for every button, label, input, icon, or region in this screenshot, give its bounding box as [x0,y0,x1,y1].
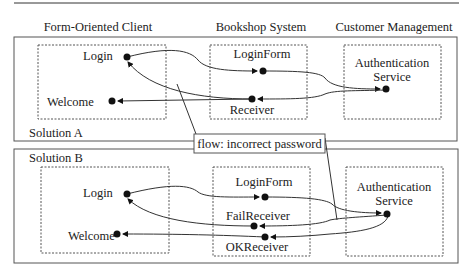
flow-auth-to-receiver-a [258,90,386,99]
node-welcome-a-label: Welcome [47,95,94,109]
node-login-a-dot [124,54,131,61]
node-loginform-b-dot [262,194,269,201]
solution-b-panel: Solution B Login Welcome LoginForm FailR… [14,149,458,263]
service-a-label-line1: Authentication [355,56,430,70]
node-welcome-a-dot [109,98,116,105]
flow-loginform-to-auth-a [263,71,380,89]
flow-receiver-to-login-a [128,62,252,99]
node-login-b-label: Login [83,186,114,200]
node-receiver-a-dot [249,96,256,103]
column-header-client: Form-Oriented Client [44,20,153,34]
node-okreceiver-b-label: OKReceiver [226,240,289,254]
node-auth-b-dot [384,211,391,218]
node-welcome-b-dot [114,231,121,238]
flow-receiver-to-welcome-a [118,99,252,101]
node-loginform-a-label: LoginForm [234,47,291,61]
callout-leader-b [325,138,337,220]
solution-a-panel: Solution A Login Welcome LoginForm Recei… [14,37,457,141]
callout-label: flow: incorrect password [197,137,322,151]
service-a-label-line2: Service [373,70,411,84]
node-receiver-a-label: Receiver [230,103,275,117]
node-okreceiver-b-dot [262,234,269,241]
solution-a-title: Solution A [29,126,83,140]
node-auth-a-dot [383,86,390,93]
service-b-label-line1: Authentication [357,180,432,194]
node-login-a-label: Login [83,49,114,63]
node-welcome-b-label: Welcome [68,229,115,243]
node-failreceiver-b-label: FailReceiver [226,209,291,223]
node-loginform-a-dot [260,68,267,75]
node-login-b-dot [124,191,131,198]
callout-leader-a [177,84,196,134]
node-failreceiver-b-dot [251,223,258,230]
solution-b-title: Solution B [29,151,83,165]
node-loginform-b-label: LoginForm [236,175,293,189]
column-header-system: Bookshop System [216,20,307,34]
service-b-label-line2: Service [375,194,413,208]
flow-okreceiver-to-welcome-b [123,234,265,237]
architecture-diagram: Form-Oriented Client Bookshop System Cus… [0,0,471,275]
column-header-customer: Customer Management [336,20,454,34]
